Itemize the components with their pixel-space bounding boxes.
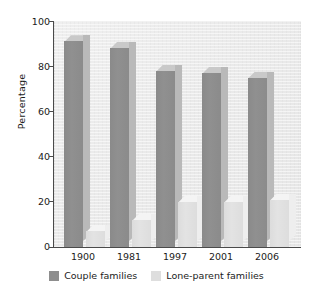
- bar-chart-figure: Percentage 100 80 60 40 20 0: [0, 0, 313, 296]
- bar-front-face: [178, 202, 197, 247]
- plot-area: [54, 21, 301, 247]
- y-tick-label-100: 100: [24, 17, 50, 27]
- y-axis-line: [53, 21, 54, 248]
- legend-item-couple-families: Couple families: [49, 270, 137, 281]
- x-tick-label-1981: 1981: [107, 251, 151, 262]
- bar-couple-families-1997: [156, 71, 175, 247]
- bar-side-face: [289, 194, 296, 242]
- bar-front-face: [132, 220, 151, 247]
- bar-side-face: [129, 42, 136, 241]
- bar-couple-families-2001: [202, 73, 221, 247]
- y-tick-label-0: 0: [24, 242, 50, 252]
- chart-legend: Couple families Lone-parent families: [0, 270, 313, 281]
- dark-grey-square-icon: [49, 271, 59, 281]
- bar-lone-parent-families-1900: [86, 231, 105, 247]
- bar-front-face: [248, 78, 267, 248]
- bar-front-face: [224, 202, 243, 247]
- y-tick-label-20: 20: [24, 197, 50, 207]
- y-tick-mark-40: [49, 156, 53, 157]
- x-tick-label-1997: 1997: [153, 251, 197, 262]
- bar-lone-parent-families-2001: [224, 202, 243, 247]
- x-tick-label-2006: 2006: [245, 251, 289, 262]
- legend-label-couple-families: Couple families: [64, 270, 137, 281]
- y-tick-mark-80: [49, 66, 53, 67]
- bar-front-face: [202, 73, 221, 247]
- bar-group-1900: [61, 21, 105, 247]
- light-grey-square-icon: [151, 271, 161, 281]
- bar-front-face: [156, 71, 175, 247]
- y-tick-label-80: 80: [24, 62, 50, 72]
- y-axis-tick-labels: 100 80 60 40 20 0: [0, 0, 50, 296]
- bar-couple-families-1981: [110, 48, 129, 247]
- y-tick-mark-60: [49, 111, 53, 112]
- x-tick-label-1900: 1900: [61, 251, 105, 262]
- bar-group-2001: [199, 21, 243, 247]
- bar-lone-parent-families-2006: [270, 200, 289, 248]
- bar-side-face: [83, 35, 90, 241]
- y-tick-mark-0: [49, 247, 53, 248]
- bar-group-1981: [107, 21, 151, 247]
- legend-item-lone-parent-families: Lone-parent families: [151, 270, 264, 281]
- bar-front-face: [64, 41, 83, 247]
- bar-couple-families-2006: [248, 78, 267, 248]
- bar-lone-parent-families-1981: [132, 220, 151, 247]
- y-tick-label-40: 40: [24, 152, 50, 162]
- bar-group-1997: [153, 21, 197, 247]
- x-axis-tick-labels: 1900 1981 1997 2001 2006: [54, 251, 301, 267]
- bar-front-face: [110, 48, 129, 247]
- bar-front-face: [270, 200, 289, 248]
- x-axis-line: [53, 247, 301, 248]
- legend-label-lone-parent-families: Lone-parent families: [166, 270, 264, 281]
- y-tick-mark-20: [49, 201, 53, 202]
- y-tick-mark-100: [49, 21, 53, 22]
- y-tick-label-60: 60: [24, 107, 50, 117]
- bar-lone-parent-families-1997: [178, 202, 197, 247]
- bar-group-2006: [245, 21, 289, 247]
- bar-couple-families-1900: [64, 41, 83, 247]
- bar-front-face: [86, 231, 105, 247]
- x-tick-label-2001: 2001: [199, 251, 243, 262]
